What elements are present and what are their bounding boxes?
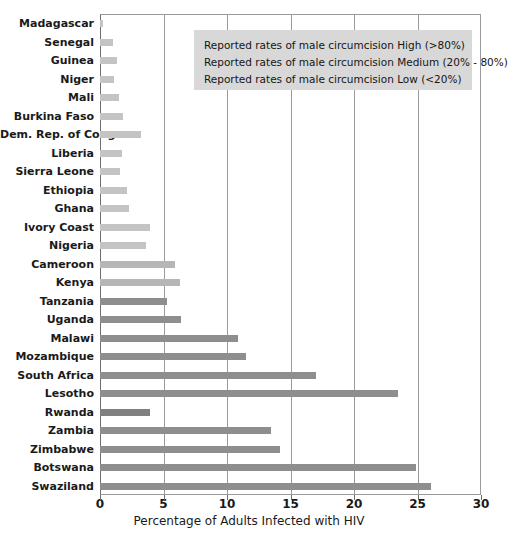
bar-row: Lesotho <box>0 384 498 403</box>
x-tick-mark-20 <box>354 495 355 500</box>
bar-row: Burkina Faso <box>0 107 498 126</box>
bar-row: Ethiopia <box>0 181 498 200</box>
category-label-mozambique: Mozambique <box>0 347 94 366</box>
bar-niger <box>100 76 114 83</box>
bar-row: Nigeria <box>0 236 498 255</box>
bar-row: Ghana <box>0 199 498 218</box>
category-label-cameroon: Cameroon <box>0 255 94 274</box>
bar-row: Mozambique <box>0 347 498 366</box>
bar-row: Kenya <box>0 273 498 292</box>
x-axis-label: Percentage of Adults Infected with HIV <box>0 514 498 528</box>
category-label-burkina-faso: Burkina Faso <box>0 107 94 126</box>
bar-kenya <box>100 279 180 286</box>
bar-botswana <box>100 464 416 471</box>
bar-cameroon <box>100 261 175 268</box>
category-label-ghana: Ghana <box>0 199 94 218</box>
category-label-sierra-leone: Sierra Leone <box>0 162 94 181</box>
category-label-zambia: Zambia <box>0 421 94 440</box>
category-label-guinea: Guinea <box>0 51 94 70</box>
legend-entry-medium: Reported rates of male circumcision Medi… <box>204 54 462 71</box>
bar-burkina-faso <box>100 113 123 120</box>
bar-row: Rwanda <box>0 403 498 422</box>
category-label-nigeria: Nigeria <box>0 236 94 255</box>
category-label-ivory-coast: Ivory Coast <box>0 218 94 237</box>
bar-row: South Africa <box>0 366 498 385</box>
bar-ghana <box>100 205 129 212</box>
bar-row: Dem. Rep. of Congo <box>0 125 498 144</box>
x-tick-mark-5 <box>164 495 165 500</box>
bar-row: Liberia <box>0 144 498 163</box>
category-label-kenya: Kenya <box>0 273 94 292</box>
category-label-ethiopia: Ethiopia <box>0 181 94 200</box>
bar-madagascar <box>100 20 103 27</box>
x-tick-mark-30 <box>481 495 482 500</box>
bar-row: Sierra Leone <box>0 162 498 181</box>
bar-senegal <box>100 39 113 46</box>
category-label-tanzania: Tanzania <box>0 292 94 311</box>
bar-swaziland <box>100 483 431 490</box>
bar-sierra-leone <box>100 168 120 175</box>
bar-malawi <box>100 335 238 342</box>
category-label-botswana: Botswana <box>0 458 94 477</box>
bar-zimbabwe <box>100 446 280 453</box>
bar-uganda <box>100 316 181 323</box>
legend: Reported rates of male circumcision High… <box>194 30 472 90</box>
bar-lesotho <box>100 390 398 397</box>
bar-row: Botswana <box>0 458 498 477</box>
bar-row: Malawi <box>0 329 498 348</box>
bar-row: Swaziland <box>0 477 498 496</box>
bar-liberia <box>100 150 122 157</box>
category-label-zimbabwe: Zimbabwe <box>0 440 94 459</box>
bar-zambia <box>100 427 271 434</box>
bar-row: Tanzania <box>0 292 498 311</box>
bar-dem-rep-of-congo <box>100 131 141 138</box>
bar-mali <box>100 94 119 101</box>
legend-entry-high: Reported rates of male circumcision High… <box>204 37 462 54</box>
bar-row: Zimbabwe <box>0 440 498 459</box>
bar-row: Uganda <box>0 310 498 329</box>
bar-row: Cameroon <box>0 255 498 274</box>
category-label-swaziland: Swaziland <box>0 477 94 496</box>
chart-title: HIV Rates and Male Circumcision in Afric… <box>0 0 498 2</box>
x-axis-ticks: 051015202530 <box>0 497 498 513</box>
category-label-senegal: Senegal <box>0 33 94 52</box>
category-label-dem-rep-of-congo: Dem. Rep. of Congo <box>0 125 94 144</box>
category-label-liberia: Liberia <box>0 144 94 163</box>
bar-row: Zambia <box>0 421 498 440</box>
x-tick-mark-15 <box>291 495 292 500</box>
x-tick-mark-10 <box>227 495 228 500</box>
category-label-malawi: Malawi <box>0 329 94 348</box>
x-tick-mark-0 <box>100 495 101 500</box>
bar-row: Ivory Coast <box>0 218 498 237</box>
bar-nigeria <box>100 242 146 249</box>
bar-row: Mali <box>0 88 498 107</box>
category-label-mali: Mali <box>0 88 94 107</box>
bar-mozambique <box>100 353 246 360</box>
category-label-madagascar: Madagascar <box>0 14 94 33</box>
bar-south-africa <box>100 372 316 379</box>
x-tick-mark-25 <box>418 495 419 500</box>
bar-ethiopia <box>100 187 127 194</box>
category-label-lesotho: Lesotho <box>0 384 94 403</box>
category-label-uganda: Uganda <box>0 310 94 329</box>
bar-rwanda <box>100 409 150 416</box>
bar-guinea <box>100 57 117 64</box>
legend-entry-low: Reported rates of male circumcision Low … <box>204 71 462 88</box>
bar-ivory-coast <box>100 224 150 231</box>
category-label-rwanda: Rwanda <box>0 403 94 422</box>
category-label-niger: Niger <box>0 70 94 89</box>
bar-tanzania <box>100 298 167 305</box>
category-label-south-africa: South Africa <box>0 366 94 385</box>
